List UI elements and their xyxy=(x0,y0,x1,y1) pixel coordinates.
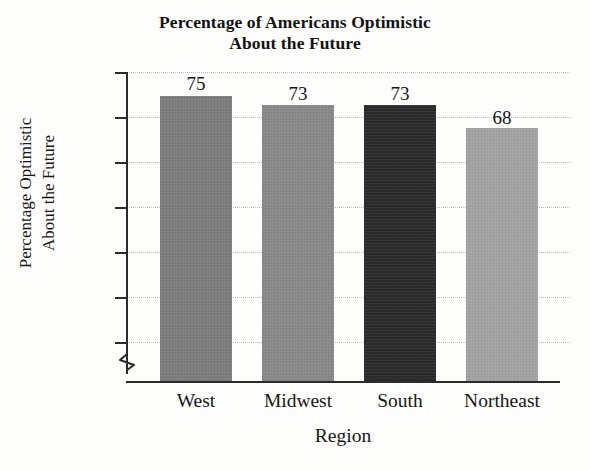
y-tick-mark-80 xyxy=(115,72,126,74)
bar-northeast[interactable] xyxy=(466,128,538,382)
x-axis-line xyxy=(126,381,560,383)
bar-texture xyxy=(364,105,436,382)
bar-value-south: 73 xyxy=(340,84,460,103)
x-category-label-northeast: Northeast xyxy=(422,390,582,412)
y-tick-mark-30 xyxy=(115,297,126,299)
bar-texture xyxy=(466,128,538,382)
bar-texture xyxy=(160,96,232,382)
bar-midwest[interactable] xyxy=(262,105,334,382)
plot-area: 75 73 73 68 xyxy=(126,72,560,382)
y-axis-title-line-1: Percentage Optimistic xyxy=(14,63,37,323)
chart-title-line-1: Percentage of Americans Optimistic xyxy=(0,12,590,33)
y-tick-mark-40 xyxy=(115,252,126,254)
axis-break-icon xyxy=(118,344,136,374)
chart-title-line-2: About the Future xyxy=(0,33,590,54)
y-axis-title: Percentage Optimistic About the Future xyxy=(14,63,60,323)
bar-texture xyxy=(262,105,334,382)
y-axis-line xyxy=(126,72,128,372)
y-axis-title-line-2: About the Future xyxy=(37,63,60,323)
bar-chart-figure: Percentage of Americans Optimistic About… xyxy=(0,0,590,471)
chart-title: Percentage of Americans Optimistic About… xyxy=(0,12,590,54)
bar-value-northeast: 68 xyxy=(442,108,562,127)
y-tick-mark-70 xyxy=(115,117,126,119)
x-axis-title: Region xyxy=(126,425,560,447)
y-tick-mark-60 xyxy=(115,162,126,164)
y-tick-mark-50 xyxy=(115,207,126,209)
bar-south[interactable] xyxy=(364,105,436,382)
bar-west[interactable] xyxy=(160,96,232,382)
